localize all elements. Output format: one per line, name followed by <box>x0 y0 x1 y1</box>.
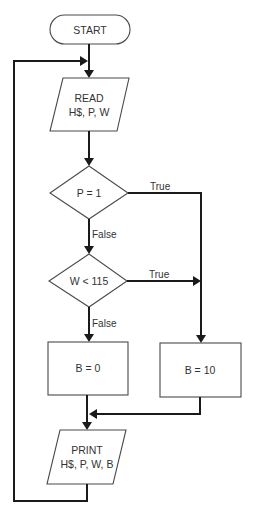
arrow-head-icon <box>193 276 201 286</box>
start-label: START <box>73 24 107 36</box>
io-shape <box>50 78 129 131</box>
arrow-head-icon <box>84 334 94 342</box>
decision1-label: P = 1 <box>77 187 102 199</box>
arrow-head-icon <box>84 158 94 166</box>
arrow-head-icon <box>84 70 94 78</box>
edge-label-false: False <box>92 318 117 329</box>
connector-d1-true <box>128 193 201 336</box>
edge-label-true: True <box>150 181 171 192</box>
decision1-node: P = 1 <box>50 166 128 219</box>
edge-label-true: True <box>149 269 170 280</box>
read-node: READ H$, P, W <box>50 78 129 131</box>
io-shape <box>47 430 126 484</box>
read-variables: H$, P, W <box>69 106 110 118</box>
start-node: START <box>50 15 130 44</box>
decision2-label: W < 115 <box>70 275 109 287</box>
set-b0-label: B = 0 <box>76 362 101 374</box>
arrow-head-icon <box>84 246 94 254</box>
arrow-head-icon <box>80 56 88 66</box>
arrow-head-icon <box>82 422 92 430</box>
arrow-head-icon <box>196 335 206 343</box>
flowchart: START READ H$, P, W P = 1 True False W <… <box>0 0 253 512</box>
read-label: READ <box>74 92 104 104</box>
print-label: PRINT <box>71 444 103 456</box>
edge-label-false: False <box>92 229 117 240</box>
set-b10-node: B = 10 <box>160 343 241 397</box>
connector-b10-merge <box>96 397 200 414</box>
print-variables: H$, P, W, B <box>61 458 114 470</box>
decision2-node: W < 115 <box>49 254 127 307</box>
set-b10-label: B = 10 <box>185 364 216 376</box>
arrow-head-icon <box>89 409 97 419</box>
print-node: PRINT H$, P, W, B <box>47 430 126 484</box>
set-b0-node: B = 0 <box>48 342 128 395</box>
